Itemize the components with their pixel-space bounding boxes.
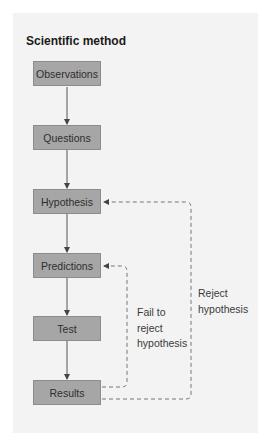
label-line: Reject bbox=[198, 286, 248, 302]
label-reject-hypothesis: Reject hypothesis bbox=[198, 286, 248, 317]
label-line: hypothesis bbox=[137, 336, 187, 352]
label-fail-to-reject-hypothesis: Fail to reject hypothesis bbox=[137, 305, 187, 352]
node-predictions: Predictions bbox=[33, 253, 101, 278]
node-results: Results bbox=[33, 380, 101, 405]
label-line: reject bbox=[137, 321, 187, 337]
loop-results-to-predictions bbox=[102, 266, 127, 387]
node-hypothesis: Hypothesis bbox=[33, 189, 101, 214]
dashed-loops bbox=[102, 202, 191, 399]
label-line: Fail to bbox=[137, 305, 187, 321]
label-line: hypothesis bbox=[198, 302, 248, 318]
node-questions: Questions bbox=[33, 125, 101, 150]
node-test: Test bbox=[33, 316, 101, 341]
node-observations: Observations bbox=[33, 61, 101, 86]
loop-results-to-hypothesis bbox=[102, 202, 191, 399]
